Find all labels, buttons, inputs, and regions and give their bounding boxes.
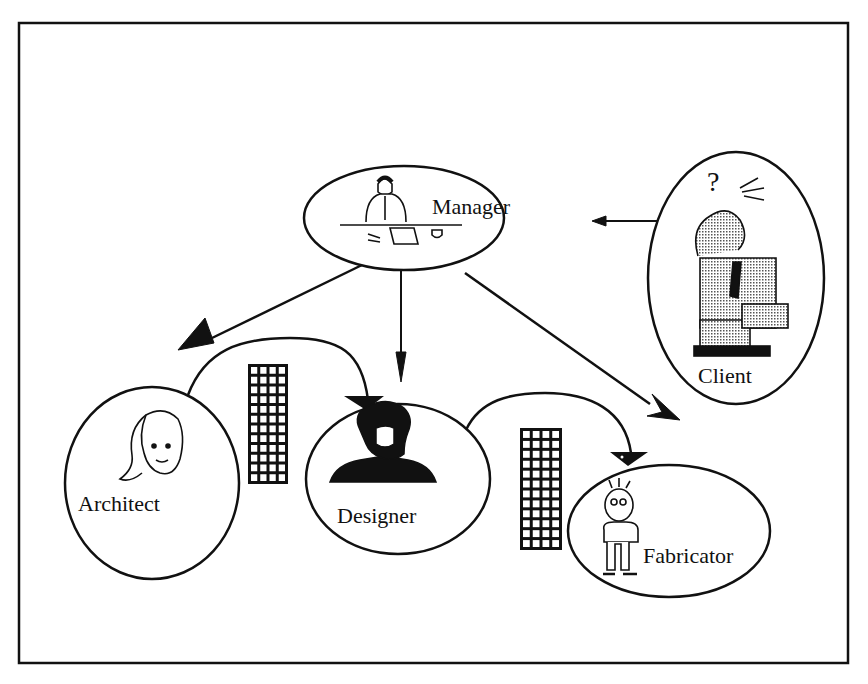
node-label-fabricator: Fabricator bbox=[643, 545, 733, 567]
workflow-diagram: Manager ? Client Architect Designer Fabr… bbox=[0, 0, 868, 684]
client-question-mark: ? bbox=[707, 168, 719, 196]
arrow-client-to-manager bbox=[592, 216, 658, 226]
node-label-manager: Manager bbox=[432, 196, 510, 218]
grid-document-icon bbox=[248, 364, 288, 484]
node-fabricator bbox=[568, 465, 770, 597]
node-designer bbox=[306, 401, 490, 554]
node-architect bbox=[65, 387, 239, 579]
grid-document-icon bbox=[520, 428, 562, 550]
arrow-manager-to-designer bbox=[396, 271, 406, 382]
node-label-designer: Designer bbox=[337, 505, 416, 527]
node-label-client: Client bbox=[698, 365, 752, 387]
node-label-architect: Architect bbox=[78, 493, 160, 515]
arrow-manager-to-architect bbox=[178, 265, 362, 350]
